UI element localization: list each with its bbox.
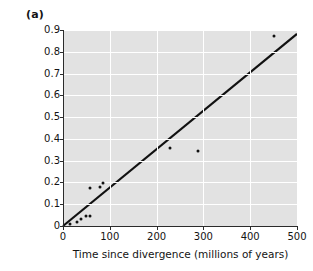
y-axis-tick <box>60 30 63 31</box>
y-axis-tick-label: 0.7 <box>44 69 60 79</box>
data-point <box>88 214 91 217</box>
y-axis-tick-label: 0 <box>54 221 60 231</box>
x-axis-line <box>63 226 298 227</box>
y-axis-tick <box>60 161 63 162</box>
regression-line <box>63 34 297 226</box>
gridline-vertical <box>203 30 204 226</box>
x-axis-tick <box>250 227 251 230</box>
y-axis-tick <box>60 226 63 227</box>
y-axis-tick <box>60 204 63 205</box>
data-point <box>89 187 92 190</box>
y-axis-tick-label: 0.6 <box>44 90 60 100</box>
gridline-horizontal <box>63 182 297 183</box>
y-axis-tick-label: 0.3 <box>44 156 60 166</box>
panel-label: (a) <box>26 8 44 21</box>
data-point <box>196 149 199 152</box>
gridline-horizontal <box>63 161 297 162</box>
x-axis-tick <box>157 227 158 230</box>
gridline-horizontal <box>63 139 297 140</box>
y-axis-tick <box>60 95 63 96</box>
y-axis-tick-label: 0.8 <box>44 47 60 57</box>
x-axis-tick-label: 300 <box>194 232 213 242</box>
data-point <box>101 182 104 185</box>
data-point <box>76 221 79 224</box>
x-axis-label: Time since divergence (millions of years… <box>63 248 298 260</box>
gridline-vertical <box>297 30 298 226</box>
y-axis-tick <box>60 74 63 75</box>
gridline-horizontal <box>63 74 297 75</box>
y-axis-tick-label: 0.5 <box>44 112 60 122</box>
data-point <box>168 147 171 150</box>
gridline-horizontal <box>63 117 297 118</box>
x-axis-tick-label: 400 <box>241 232 260 242</box>
x-axis-tick <box>203 227 204 230</box>
x-axis-tick <box>297 227 298 230</box>
trendline <box>63 30 297 226</box>
y-axis-line <box>63 30 64 227</box>
x-axis-tick <box>110 227 111 230</box>
x-axis-tick <box>63 227 64 230</box>
x-axis-tick-label: 100 <box>100 232 119 242</box>
gridline-horizontal <box>63 30 297 31</box>
data-point <box>69 222 72 225</box>
gridline-horizontal <box>63 204 297 205</box>
data-point <box>272 34 275 37</box>
y-axis-tick <box>60 182 63 183</box>
scatter-plot-figure: (a) Time since divergence (millions of y… <box>0 0 313 271</box>
y-axis-tick-label: 0.9 <box>44 25 60 35</box>
x-axis-tick-label: 500 <box>287 232 306 242</box>
x-axis-tick-label: 0 <box>60 232 66 242</box>
gridline-horizontal <box>63 95 297 96</box>
plot-area <box>63 30 297 226</box>
y-axis-tick-label: 0.2 <box>44 177 60 187</box>
gridline-vertical <box>110 30 111 226</box>
y-axis-tick-label: 0.1 <box>44 199 60 209</box>
y-axis-tick-label: 0.4 <box>44 134 60 144</box>
y-axis-tick <box>60 117 63 118</box>
gridline-horizontal <box>63 52 297 53</box>
gridline-vertical <box>157 30 158 226</box>
x-axis-tick-label: 200 <box>147 232 166 242</box>
y-axis-tick <box>60 52 63 53</box>
data-point <box>98 186 101 189</box>
gridline-vertical <box>250 30 251 226</box>
y-axis-tick <box>60 139 63 140</box>
data-point <box>79 218 82 221</box>
